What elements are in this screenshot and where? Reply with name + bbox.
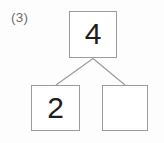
number-bond-part-left-value: 2 <box>47 93 64 123</box>
problem-number-label: (3) <box>11 10 28 26</box>
number-bond-part-left-box[interactable]: 2 <box>31 85 80 131</box>
number-bond-problem: (3) 4 2 <box>0 0 164 143</box>
number-bond-total-box[interactable]: 4 <box>69 11 117 58</box>
number-bond-total-value: 4 <box>85 19 102 49</box>
number-bond-part-right-box[interactable] <box>102 85 148 131</box>
connector-line-right <box>93 59 125 86</box>
connector-line-left <box>56 59 93 86</box>
